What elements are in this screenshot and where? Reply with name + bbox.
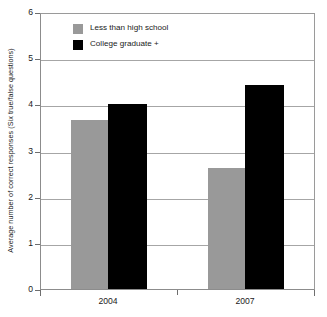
gridline-5 (41, 60, 314, 61)
y-tick-0: 0 (0, 290, 33, 291)
legend-label-less-than-high-school: Less than high school (90, 24, 168, 32)
y-tick-label-1: 1 (3, 239, 33, 248)
legend-label-college-graduate: College graduate + (90, 40, 159, 48)
bar-chart: Average number of correct responses (Six… (0, 0, 327, 317)
bar-2007-less-than-high-school (208, 168, 245, 289)
x-tick-mark-right (314, 290, 315, 296)
y-tick-label-3: 3 (3, 147, 33, 156)
x-tick-mark-center (177, 290, 178, 295)
legend: Less than high school College graduate + (73, 22, 168, 54)
gray-swatch-icon (73, 24, 83, 34)
y-tick-4: 4 (0, 105, 33, 106)
legend-item-less-than-high-school: Less than high school (73, 22, 168, 35)
x-tick-label-2004: 2004 (78, 296, 138, 306)
y-tick-label-2: 2 (3, 193, 33, 202)
x-tick-mark-left (40, 290, 41, 296)
y-tick-2: 2 (0, 198, 33, 199)
y-tick-6: 6 (0, 13, 33, 14)
y-tick-1: 1 (0, 244, 33, 245)
x-tick-label-2007: 2007 (215, 296, 275, 306)
y-tick-5: 5 (0, 59, 33, 60)
y-tick-3: 3 (0, 152, 33, 153)
y-tick-label-4: 4 (3, 100, 33, 109)
y-tick-label-0: 0 (3, 285, 33, 294)
plot-area: Less than high school College graduate + (40, 13, 315, 290)
black-swatch-icon (73, 40, 83, 50)
bar-2004-college-graduate (108, 104, 147, 289)
bar-2004-less-than-high-school (71, 120, 108, 289)
y-tick-label-6: 6 (3, 8, 33, 17)
bar-2007-college-graduate (245, 85, 284, 289)
legend-item-college-graduate: College graduate + (73, 38, 168, 51)
y-tick-label-5: 5 (3, 54, 33, 63)
